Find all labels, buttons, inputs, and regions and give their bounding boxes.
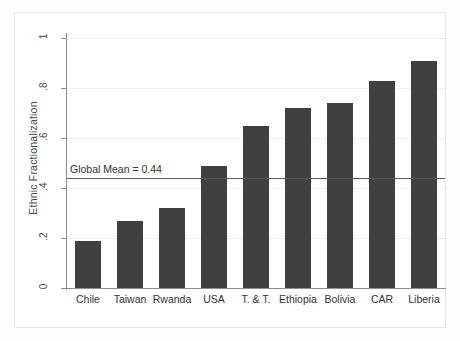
y-tick-label: 1 xyxy=(38,24,49,50)
bar xyxy=(327,103,353,288)
x-tick-label: Taiwan xyxy=(109,293,151,305)
plot-area: Global Mean = 0.44 xyxy=(67,38,445,288)
global-mean-line xyxy=(67,178,445,179)
bar xyxy=(201,166,227,289)
gridline xyxy=(67,38,445,39)
bar xyxy=(243,126,269,289)
x-tick-label: Ethiopia xyxy=(277,293,319,305)
y-tick-label: .2 xyxy=(38,224,49,250)
x-tick-label: Chile xyxy=(67,293,109,305)
y-tick-label: 0 xyxy=(38,274,49,300)
x-tick-label: USA xyxy=(193,293,235,305)
y-tick-label: .6 xyxy=(38,124,49,150)
bar xyxy=(159,208,185,288)
gridline xyxy=(67,288,445,289)
y-tick-label: .8 xyxy=(38,74,49,100)
x-tick-label: Liberia xyxy=(403,293,445,305)
x-tick-label: Rwanda xyxy=(151,293,193,305)
global-mean-label: Global Mean = 0.44 xyxy=(69,163,163,175)
bar xyxy=(75,241,101,289)
bar xyxy=(411,61,437,289)
bar xyxy=(117,221,143,289)
chart-figure: Ethnic Fractionalization 0.2.4.6.81 Glob… xyxy=(0,0,460,341)
bar xyxy=(369,81,395,289)
x-tick-label: Bolivia xyxy=(319,293,361,305)
x-tick-label: T. & T. xyxy=(235,293,277,305)
x-tick-label: CAR xyxy=(361,293,403,305)
bar xyxy=(285,108,311,288)
y-tick-label: .4 xyxy=(38,174,49,200)
